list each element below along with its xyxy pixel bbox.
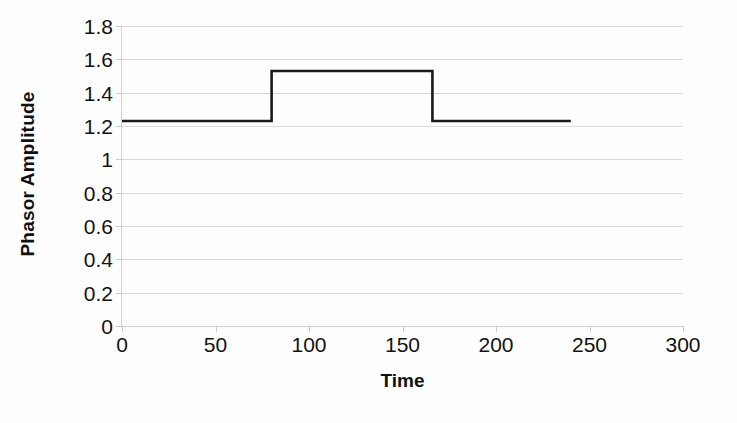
y-tick-label: 1.8 [84, 16, 113, 37]
x-tick [683, 326, 684, 332]
data-line [122, 71, 571, 121]
x-tick-label: 150 [385, 334, 420, 355]
x-tick [403, 326, 404, 332]
chart-figure: Phasor Amplitude 00.20.40.60.811.21.41.6… [0, 0, 737, 423]
y-tick-label: 0.8 [84, 182, 113, 203]
x-tick-label: 250 [572, 334, 607, 355]
x-axis-title: Time [122, 370, 683, 392]
data-series-layer [122, 26, 683, 326]
y-tick-label: 1 [101, 149, 113, 170]
x-tick-label: 100 [291, 334, 326, 355]
x-tick [216, 326, 217, 332]
x-tick-label: 300 [665, 334, 700, 355]
y-tick-label: 0.2 [84, 282, 113, 303]
x-tick [122, 326, 123, 332]
plot-area: 00.20.40.60.811.21.41.61.8 0501001502002… [122, 26, 683, 326]
x-tick-label: 0 [116, 334, 128, 355]
series-svg [122, 26, 683, 326]
x-tick-label: 200 [478, 334, 513, 355]
x-tick [496, 326, 497, 332]
y-tick-label: 1.2 [84, 116, 113, 137]
y-tick-label: 1.4 [84, 82, 113, 103]
x-tick [590, 326, 591, 332]
x-tick [309, 326, 310, 332]
y-tick-label: 0.4 [84, 249, 113, 270]
y-tick-label: 0.6 [84, 216, 113, 237]
y-axis-title: Phasor Amplitude [14, 24, 42, 324]
x-tick-label: 50 [204, 334, 227, 355]
y-tick-label: 0 [101, 316, 113, 337]
y-tick-label: 1.6 [84, 49, 113, 70]
